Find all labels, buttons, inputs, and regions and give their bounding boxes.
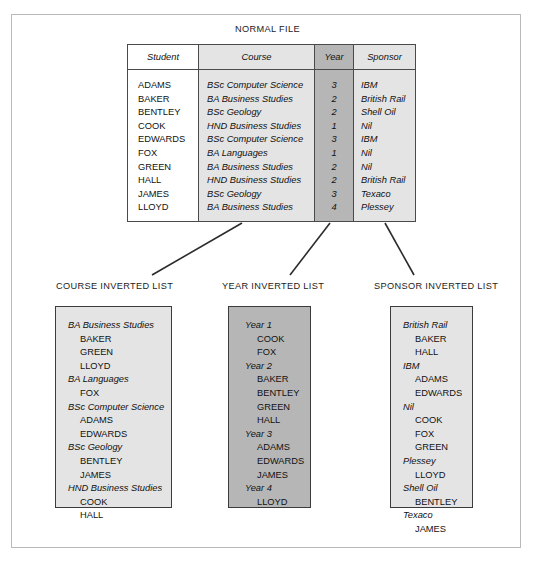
table-cell: IBM [354, 133, 415, 147]
inverted-list-value: BENTLEY [56, 455, 171, 469]
table-cell: BENTLEY [128, 106, 198, 120]
inverted-list-value: GREEN [229, 401, 310, 415]
inverted-list-value: ADAMS [56, 414, 171, 428]
table-cell: JAMES [128, 188, 198, 202]
table-cell: BA Business Studies [199, 201, 314, 215]
sponsor-inverted-list-box: British Rail BAKER HALL IBM ADAMS EDWARD… [390, 306, 473, 508]
inverted-list-value: COOK [229, 333, 310, 347]
table-cell: Plessey [354, 201, 415, 215]
year-inverted-list-title: YEAR INVERTED LIST [222, 281, 324, 291]
table-cell: EDWARDS [128, 133, 198, 147]
inverted-list-key: British Rail [391, 319, 472, 333]
table-cell: 2 [315, 161, 353, 175]
inverted-list-key: Nil [391, 401, 472, 415]
course-inverted-list-entries: BA Business Studies BAKER GREEN LLOYD BA… [56, 307, 171, 523]
table-cell: COOK [128, 120, 198, 134]
inverted-list-value: JAMES [391, 523, 472, 537]
inverted-list-value: FOX [56, 387, 171, 401]
inverted-list-value: HALL [56, 509, 171, 523]
table-cell: 2 [315, 174, 353, 188]
column-body-sponsor: IBM British Rail Shell Oil Nil IBM Nil N… [354, 70, 415, 215]
course-inverted-list-title: COURSE INVERTED LIST [56, 281, 173, 291]
table-cell: 2 [315, 106, 353, 120]
table-cell: BSc Computer Science [199, 79, 314, 93]
inverted-list-key: BA Business Studies [56, 319, 171, 333]
inverted-list-value: BENTLEY [229, 387, 310, 401]
table-cell: 3 [315, 133, 353, 147]
course-inverted-list-box: BA Business Studies BAKER GREEN LLOYD BA… [55, 306, 172, 508]
table-cell: 3 [315, 79, 353, 93]
table-cell: BSc Geology [199, 188, 314, 202]
inverted-list-key: BSc Geology [56, 441, 171, 455]
inverted-list-value: ADAMS [391, 373, 472, 387]
inverted-list-key: Texaco [391, 509, 472, 523]
column-course: Course BSc Computer Science BA Business … [198, 45, 314, 221]
column-header-course: Course [199, 45, 314, 70]
inverted-list-value: LLOYD [56, 360, 171, 374]
inverted-list-key: Year 4 [229, 482, 310, 496]
table-cell: British Rail [354, 174, 415, 188]
inverted-list-value: COOK [391, 414, 472, 428]
column-body-student: ADAMS BAKER BENTLEY COOK EDWARDS FOX GRE… [128, 70, 198, 215]
inverted-list-key: HND Business Studies [56, 482, 171, 496]
inverted-list-value: LLOYD [229, 496, 310, 510]
year-inverted-list-entries: Year 1 COOK FOX Year 2 BAKER BENTLEY GRE… [229, 307, 310, 509]
inverted-list-key: BA Languages [56, 373, 171, 387]
column-student: Student ADAMS BAKER BENTLEY COOK EDWARDS… [128, 45, 198, 221]
column-header-year: Year [315, 45, 353, 70]
table-cell: British Rail [354, 93, 415, 107]
column-header-student: Student [128, 45, 198, 70]
inverted-list-value: HALL [229, 414, 310, 428]
inverted-list-value: EDWARDS [56, 428, 171, 442]
table-cell: BA Business Studies [199, 161, 314, 175]
table-cell: 1 [315, 147, 353, 161]
inverted-list-value: BAKER [229, 373, 310, 387]
table-cell: LLOYD [128, 201, 198, 215]
inverted-list-value: FOX [391, 428, 472, 442]
normal-file-title: NORMAL FILE [0, 24, 535, 34]
inverted-list-key: Plessey [391, 455, 472, 469]
table-cell: ADAMS [128, 79, 198, 93]
inverted-list-value: FOX [229, 346, 310, 360]
inverted-list-value: BENTLEY [391, 496, 472, 510]
inverted-list-key: Year 2 [229, 360, 310, 374]
inverted-list-value: EDWARDS [229, 455, 310, 469]
inverted-list-value: BAKER [391, 333, 472, 347]
table-cell: FOX [128, 147, 198, 161]
inverted-list-value: JAMES [56, 469, 171, 483]
inverted-list-key: BSc Computer Science [56, 401, 171, 415]
table-cell: HND Business Studies [199, 174, 314, 188]
year-inverted-list-box: Year 1 COOK FOX Year 2 BAKER BENTLEY GRE… [228, 306, 311, 508]
table-cell: Nil [354, 147, 415, 161]
column-header-sponsor: Sponsor [354, 45, 415, 70]
inverted-list-value: COOK [56, 496, 171, 510]
inverted-list-value: JAMES [229, 469, 310, 483]
inverted-list-key: IBM [391, 360, 472, 374]
table-cell: HALL [128, 174, 198, 188]
table-cell: 2 [315, 93, 353, 107]
table-cell: Nil [354, 120, 415, 134]
column-body-course: BSc Computer Science BA Business Studies… [199, 70, 314, 215]
sponsor-inverted-list-title: SPONSOR INVERTED LIST [374, 281, 498, 291]
column-year: Year 3 2 2 1 3 1 2 2 3 4 [314, 45, 353, 221]
table-cell: BSc Geology [199, 106, 314, 120]
normal-file-table: Student ADAMS BAKER BENTLEY COOK EDWARDS… [127, 44, 416, 222]
table-cell: BA Business Studies [199, 93, 314, 107]
table-cell: Nil [354, 161, 415, 175]
inverted-list-value: ADAMS [229, 441, 310, 455]
table-cell: 1 [315, 120, 353, 134]
table-cell: 4 [315, 201, 353, 215]
inverted-list-value: LLOYD [391, 469, 472, 483]
sponsor-inverted-list-entries: British Rail BAKER HALL IBM ADAMS EDWARD… [391, 307, 472, 537]
inverted-list-value: GREEN [56, 346, 171, 360]
column-sponsor: Sponsor IBM British Rail Shell Oil Nil I… [353, 45, 415, 221]
inverted-list-diagram: NORMAL FILE Student ADAMS BAKER BENTLEY … [0, 0, 535, 564]
inverted-list-key: Year 3 [229, 428, 310, 442]
inverted-list-value: HALL [391, 346, 472, 360]
table-cell: BA Languages [199, 147, 314, 161]
table-cell: BAKER [128, 93, 198, 107]
table-cell: Shell Oil [354, 106, 415, 120]
table-cell: 3 [315, 188, 353, 202]
table-cell: HND Business Studies [199, 120, 314, 134]
inverted-list-value: EDWARDS [391, 387, 472, 401]
